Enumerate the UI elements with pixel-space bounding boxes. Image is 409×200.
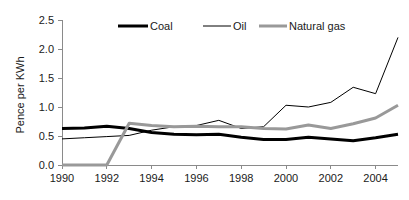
series-line-coal [62, 126, 398, 141]
x-axis: 19901992199419961998200020022004 [50, 165, 398, 184]
line-chart: CoalOilNatural gas 0.00.51.01.52.02.5 19… [0, 0, 409, 200]
x-tick-label: 2002 [319, 172, 343, 184]
x-tick-label: 2000 [274, 172, 298, 184]
chart-legend: CoalOilNatural gas [118, 20, 346, 32]
chart-figure: CoalOilNatural gas 0.00.51.01.52.02.5 19… [0, 0, 409, 200]
x-tick-label: 1992 [95, 172, 119, 184]
y-tick-label: 2.0 [39, 43, 54, 55]
x-tick-label: 1998 [229, 172, 253, 184]
x-tick-label: 1994 [139, 172, 163, 184]
y-tick-label: 1.0 [39, 101, 54, 113]
x-tick-label: 2004 [363, 172, 387, 184]
legend-label-oil: Oil [233, 20, 246, 32]
y-tick-label: 1.5 [39, 72, 54, 84]
y-axis-title: Pence per KWh [14, 56, 26, 133]
y-tick-label: 0.0 [39, 159, 54, 171]
y-tick-label: 0.5 [39, 130, 54, 142]
data-series-group [62, 37, 398, 165]
x-tick-label: 1996 [184, 172, 208, 184]
legend-label-natural-gas: Natural gas [289, 20, 346, 32]
legend-label-coal: Coal [150, 20, 173, 32]
y-axis: 0.00.51.01.52.02.5 [39, 14, 62, 171]
x-tick-label: 1990 [50, 172, 74, 184]
y-tick-label: 2.5 [39, 14, 54, 26]
